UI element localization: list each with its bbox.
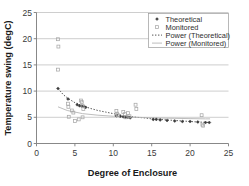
y-tick-label-10: 10 [22, 86, 32, 96]
y-axis-title: Temperature swing (degC) [3, 20, 13, 135]
x-tick-label-15: 15 [147, 148, 157, 158]
x-tick-label-10: 10 [109, 148, 119, 158]
legend-label-power-monitored: Power (Monitored) [166, 39, 227, 48]
y-tick-label-25: 25 [22, 8, 32, 18]
x-tick-label-25: 25 [224, 148, 234, 158]
chart-figure: 05101520250510152025Degree of EnclosureT… [0, 0, 249, 186]
y-tick-label-0: 0 [27, 139, 32, 149]
y-tick-label-5: 5 [27, 112, 32, 122]
y-tick-label-15: 15 [22, 60, 32, 70]
x-tick-label-5: 5 [73, 148, 78, 158]
scatter-plot: 05101520250510152025Degree of EnclosureT… [0, 0, 249, 186]
x-axis-title: Degree of Enclosure [88, 168, 177, 178]
y-tick-label-20: 20 [22, 34, 32, 44]
x-tick-label-20: 20 [185, 148, 195, 158]
x-tick-label-0: 0 [34, 148, 39, 158]
